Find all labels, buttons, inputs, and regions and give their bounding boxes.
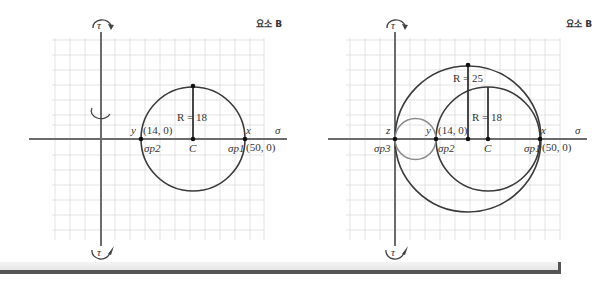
left-center-label: C [189, 142, 197, 154]
left-radius-label: R = 18 [177, 111, 208, 123]
right-z-label: z [385, 124, 391, 136]
right-outer-radius-label: R = 25 [453, 72, 484, 84]
right-x-coord: (50, 0) [542, 141, 572, 154]
point-z [393, 137, 398, 142]
center-point [486, 137, 491, 142]
right-tau-top-label: τ [391, 19, 396, 31]
point-y [434, 137, 439, 142]
right-sigma-p2: σp2 [438, 142, 455, 154]
left-sigma-p2: σp2 [144, 142, 161, 154]
center-point [191, 137, 196, 142]
right-tau-bottom-icon [386, 246, 408, 259]
top-point [191, 84, 196, 89]
right-sigma-p1: σp1 [524, 142, 540, 154]
right-center-label: C [484, 142, 492, 154]
left-tau-bottom-icon [92, 246, 114, 259]
right-y-coord: (14, 0) [438, 124, 468, 137]
left-x-coord: (50, 0) [246, 141, 276, 154]
right-inner-radius-label: R = 18 [472, 111, 503, 123]
outer-center-point [466, 137, 471, 142]
point-y [139, 137, 144, 142]
left-tau-top-label: τ [97, 19, 102, 31]
right-sigma-p3: σp3 [374, 142, 391, 154]
left-x-label: x [245, 124, 251, 136]
bottom-shade [0, 262, 558, 270]
right-y-label: y [425, 124, 431, 136]
left-y-coord: (14, 0) [143, 124, 173, 137]
bottom-rule-edge [558, 262, 561, 274]
right-element-label: 요소 B [566, 19, 592, 29]
right-x-label: x [540, 124, 546, 136]
left-tau-bottom-label: τ [97, 246, 102, 258]
mohr-circle-figure: τ τ 요소 B σ y (14, 0) x (50, 0) σp2 σp1 C… [0, 0, 614, 283]
left-element-label: 요소 B [256, 19, 282, 29]
outer-top-point [466, 63, 471, 68]
left-y-label: y [130, 124, 136, 136]
left-sigma-label: σ [275, 124, 281, 136]
left-sigma-p1: σp1 [228, 142, 244, 154]
bottom-rule [0, 270, 560, 274]
right-sigma-label: σ [575, 124, 581, 136]
right-tau-bottom-label: τ [391, 246, 396, 258]
